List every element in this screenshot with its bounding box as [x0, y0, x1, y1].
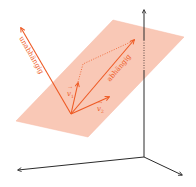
y-axis [144, 157, 182, 175]
plane [16, 20, 184, 137]
x-axis [18, 157, 144, 170]
independent-label: unabhängig [17, 35, 45, 76]
vector-space-diagram: unabhängig abhängig → v 1 → v 2 [0, 0, 196, 187]
v1-label-sub: 1 [71, 94, 74, 99]
v2-label-sub: 2 [101, 109, 104, 114]
